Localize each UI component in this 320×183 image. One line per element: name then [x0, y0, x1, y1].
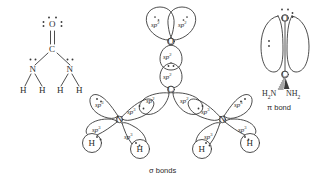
sigma-hydrogen-1-label: H — [89, 139, 96, 148]
pi-bond-caption: π bond — [267, 104, 291, 112]
pi-o-right-dot — [292, 12, 294, 14]
cn-right-sigma-dot — [202, 105, 204, 107]
nr-sp3-to-h3-orbital-label: sp3 — [204, 133, 213, 141]
pi-carbon-label: C — [282, 70, 288, 79]
nh1-sigma-dot — [96, 136, 98, 138]
nr-sp3-to-c-orbital-label: sp3 — [201, 108, 210, 116]
lewis-nitrogen-right-label: N — [67, 65, 74, 74]
o-lonepair-dot — [61, 21, 63, 23]
pi-oxygen-label: O — [282, 14, 289, 23]
sigma-nitrogen-right-label: N — [219, 115, 226, 124]
pi-left-lobe-dot — [268, 45, 270, 47]
nh3-sigma-dot — [205, 142, 207, 144]
sigma-oxygen-label: O — [168, 37, 175, 46]
sigma-hydrogen-3-label: H — [199, 145, 206, 154]
o-lonepair-dot — [61, 25, 63, 27]
lewis-oxygen-label: O — [49, 20, 56, 29]
nl-sp3-to-h1-orbital-label: sp3 — [92, 126, 101, 134]
cn-left-sigma-dot — [143, 108, 145, 110]
sigma-nitrogen-left-label: N — [116, 115, 123, 124]
lewis-hydrogen-2-label: H — [39, 86, 46, 95]
o-sp2-down-orbital-label: sp2 — [163, 53, 172, 61]
c-sp2-right-orbital-label: sp2 — [180, 97, 189, 105]
n-left-lonepair-dot — [30, 59, 32, 61]
nl-sp3-lonepair-orbital-label: sp3 — [95, 101, 104, 109]
nl-sp3-to-c-orbital-label: sp3 — [127, 108, 136, 116]
cn-left-sigma-dot — [139, 105, 141, 107]
lewis-carbon-label: C — [49, 45, 55, 54]
cn-right-sigma-dot — [198, 108, 200, 110]
c-sp2-up-orbital-label: sp2 — [163, 73, 172, 81]
pi-left-lobe-dot — [268, 40, 270, 42]
co-sigma-dot — [173, 65, 175, 67]
figure-canvas: O C N N H H H H O C N N H H H H sp2 sp2 … — [0, 0, 320, 183]
lewis-hydrogen-1-label: H — [20, 86, 27, 95]
nr-lonepair-dot — [244, 98, 246, 100]
n-right-lonepair-dot — [72, 59, 74, 61]
nr-sp3-to-h4-orbital-label: sp3 — [238, 126, 247, 134]
nl-lonepair-dot — [96, 98, 98, 100]
pi-o-right-dot — [292, 16, 294, 18]
o-lonepair-dot — [43, 25, 45, 27]
nh1-sigma-dot — [100, 139, 102, 141]
sigma-carbon-label: C — [168, 85, 174, 94]
c-to-nh2-wedge — [284, 78, 290, 89]
p-lobe-left — [261, 16, 283, 72]
lewis-hydrogen-3-label: H — [57, 86, 64, 95]
o-sp2-left-dot — [154, 16, 156, 18]
o-sp2-right-dot — [186, 16, 188, 18]
p-lobe-right — [287, 16, 309, 72]
nr-sp3-lonepair-orbital-label: sp3 — [234, 101, 243, 109]
nh3-sigma-dot — [209, 145, 211, 147]
n-right-lonepair-dot — [67, 59, 69, 61]
o-lonepair-dot — [43, 21, 45, 23]
pi-o-top-dot — [281, 9, 283, 11]
o-sp2-right-orbital-label: sp2 — [178, 21, 187, 29]
lewis-nitrogen-left-label: N — [30, 65, 37, 74]
c-sp2-left-orbital-label: sp2 — [146, 97, 155, 105]
sigma-hydrogen-4-label: H — [247, 139, 254, 148]
sigma-hydrogen-2-label: H — [137, 145, 144, 154]
lewis-hydrogen-4-label: H — [76, 86, 83, 95]
c-to-h2n-hash-wedge — [278, 79, 284, 89]
pi-o-top-dot — [287, 9, 289, 11]
pi-amine-right-label: NH2 — [286, 90, 300, 100]
sigma-bonds-caption: σ bonds — [149, 167, 176, 175]
pi-amine-left-label: H2N — [262, 90, 276, 100]
n-left-lonepair-dot — [35, 59, 37, 61]
co-sigma-dot — [168, 65, 170, 67]
o-sp2-left-orbital-label: sp2 — [151, 21, 160, 29]
lewis-bonds — [25, 31, 79, 86]
cn-left-bond — [35, 53, 48, 65]
nl-sp3-to-h2-orbital-label: sp3 — [124, 133, 133, 141]
